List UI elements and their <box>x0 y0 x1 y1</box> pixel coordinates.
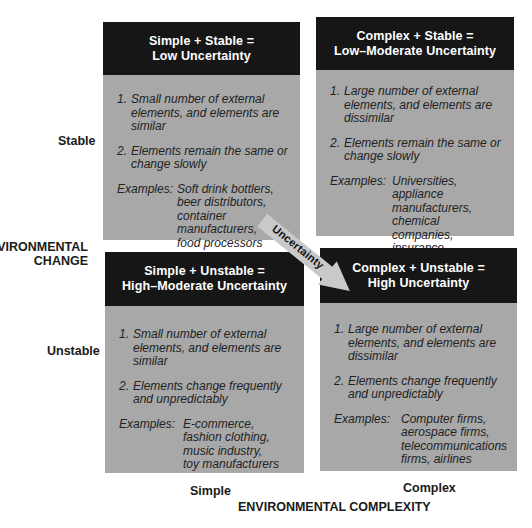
example-item: music industry, <box>183 445 294 459</box>
examples-list: E-commerce, fashion clothing, music indu… <box>171 418 294 472</box>
example-item: Computer firms, <box>401 413 507 427</box>
quadrant-title-line2: Low–Moderate Uncertainty <box>334 44 496 59</box>
item-number: 2. <box>330 137 344 164</box>
examples-label: Examples: <box>119 418 171 472</box>
y-axis-title-line2: CHANGE <box>0 254 88 268</box>
example-item: fashion clothing, <box>183 431 294 445</box>
y-axis-label-unstable: Unstable <box>47 344 100 358</box>
quadrant-simple-stable: Simple + Stable = Low Uncertainty 1. Sma… <box>103 22 300 240</box>
quadrant-title-line1: Simple + Stable = <box>149 34 254 49</box>
quadrant-title-line1: Complex + Stable = <box>356 29 473 44</box>
item-number: 2. <box>117 145 131 172</box>
examples: Examples: Computer firms, aerospace firm… <box>334 413 507 467</box>
quadrant-body: 1. Large number of external elements, an… <box>316 70 514 269</box>
quadrant-simple-unstable: Simple + Unstable = High–Moderate Uncert… <box>105 252 304 473</box>
examples-label: Examples: <box>117 183 165 251</box>
list-item: 2. Elements remain the same or change sl… <box>330 137 504 164</box>
x-axis-label-complex: Complex <box>403 481 456 495</box>
quadrant-header: Simple + Unstable = High–Moderate Uncert… <box>105 252 304 306</box>
quadrant-title-line2: High–Moderate Uncertainty <box>122 279 287 294</box>
example-item: beer distributors, <box>177 196 290 210</box>
item-number: 2. <box>119 380 133 407</box>
example-item: Soft drink bottlers, <box>177 183 290 197</box>
item-number: 1. <box>119 328 133 369</box>
example-item: appliance manufacturers, <box>392 188 504 215</box>
x-axis-title: ENVIRONMENTAL COMPLEXITY <box>238 500 431 514</box>
item-number: 2. <box>334 375 348 402</box>
list-item: 2. Elements change frequently and unpred… <box>334 375 507 402</box>
quadrant-complex-stable: Complex + Stable = Low–Moderate Uncertai… <box>316 17 514 236</box>
examples-list: Computer firms, aerospace firms, telecom… <box>389 413 507 467</box>
quadrant-title-line1: Complex + Unstable = <box>352 261 485 276</box>
item-text: Large number of external elements, and e… <box>348 323 507 364</box>
quadrant-header: Complex + Stable = Low–Moderate Uncertai… <box>316 17 514 70</box>
list-item: 1. Large number of external elements, an… <box>330 85 504 126</box>
item-text: Small number of external elements, and e… <box>133 328 294 369</box>
item-text: Elements change frequently and unpredict… <box>348 375 507 402</box>
example-item: telecommunications <box>401 440 507 454</box>
item-text: Elements change frequently and unpredict… <box>133 380 294 407</box>
item-text: Large number of external elements, and e… <box>344 85 504 126</box>
example-item: firms, airlines <box>401 453 507 467</box>
y-axis-title-line1: ENVIRONMENTAL <box>0 240 88 254</box>
item-number: 1. <box>334 323 348 364</box>
item-text: Small number of external elements, and e… <box>131 93 290 134</box>
example-item: toy manufacturers <box>183 458 294 472</box>
list-item: 2. Elements remain the same or change sl… <box>117 145 290 172</box>
quadrant-title-line2: Low Uncertainty <box>152 49 251 64</box>
item-text: Elements remain the same or change slowl… <box>131 145 290 172</box>
x-axis-label-simple: Simple <box>190 484 231 498</box>
example-item: aerospace firms, <box>401 426 507 440</box>
quadrant-title-line2: High Uncertainty <box>368 276 470 291</box>
example-item: Universities, <box>392 175 504 189</box>
list-item: 1. Small number of external elements, an… <box>117 93 290 134</box>
quadrant-title-line1: Simple + Unstable = <box>144 264 265 279</box>
examples-label: Examples: <box>334 413 389 467</box>
quadrant-body: 1. Large number of external elements, an… <box>320 303 517 467</box>
quadrant-body: 1. Small number of external elements, an… <box>105 306 304 472</box>
y-axis-label-stable: Stable <box>58 134 96 148</box>
examples: Examples: E-commerce, fashion clothing, … <box>119 418 294 472</box>
example-item: chemical companies, <box>392 215 504 242</box>
quadrant-header: Simple + Stable = Low Uncertainty <box>103 22 300 75</box>
item-text: Elements remain the same or change slowl… <box>344 137 504 164</box>
list-item: 1. Small number of external elements, an… <box>119 328 294 369</box>
y-axis-title: ENVIRONMENTAL CHANGE <box>0 240 88 268</box>
item-number: 1. <box>117 93 131 134</box>
example-item: E-commerce, <box>183 418 294 432</box>
item-number: 1. <box>330 85 344 126</box>
list-item: 2. Elements change frequently and unpred… <box>119 380 294 407</box>
list-item: 1. Large number of external elements, an… <box>334 323 507 364</box>
